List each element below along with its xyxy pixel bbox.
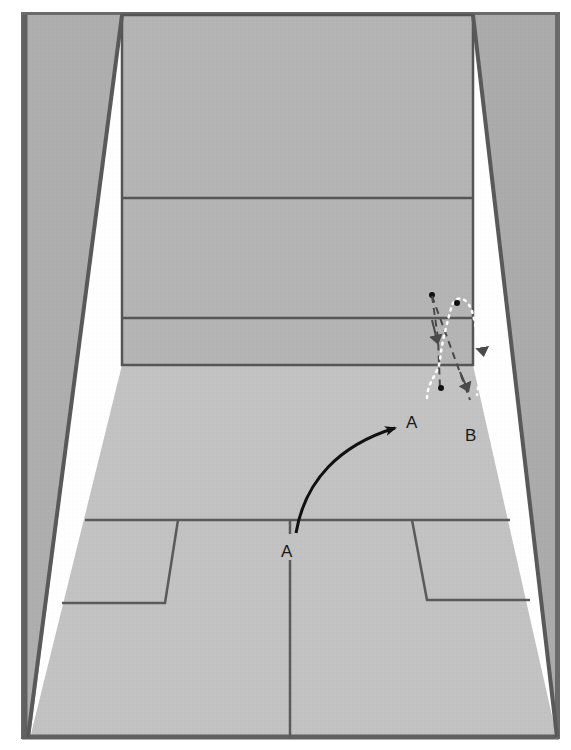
squash-court-diagram: A A B — [0, 0, 571, 750]
label-target-b: B — [465, 426, 476, 445]
label-target-a: A — [406, 413, 418, 432]
label-start-a: A — [281, 542, 293, 561]
ball-contact-point — [438, 385, 444, 391]
ball-contact-point — [454, 300, 460, 306]
